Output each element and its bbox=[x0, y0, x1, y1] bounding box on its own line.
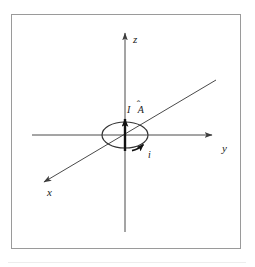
y-axis-label: y bbox=[221, 142, 227, 154]
z-axis-label: z bbox=[132, 33, 138, 45]
x-axis-line bbox=[44, 80, 216, 182]
diagram-canvas: z y x I A ̂ i bbox=[0, 0, 255, 267]
figure-root: z y x I A ̂ i bbox=[0, 0, 255, 267]
x-axis-label: x bbox=[46, 186, 52, 198]
area-symbol: A bbox=[137, 104, 145, 115]
current-symbol: I bbox=[126, 104, 131, 115]
current-direction-label: i bbox=[148, 149, 151, 160]
area-vector-label: I A bbox=[126, 104, 145, 115]
area-hat-accent: ̂ bbox=[137, 100, 141, 102]
